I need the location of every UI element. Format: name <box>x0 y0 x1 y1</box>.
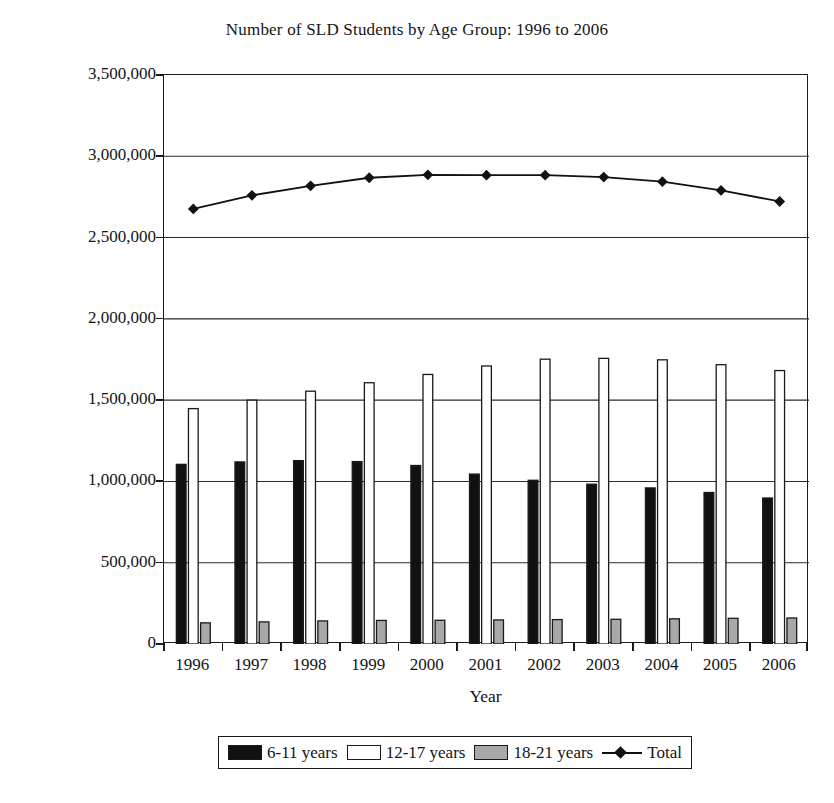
bar <box>423 374 433 644</box>
bar <box>235 462 245 644</box>
legend-label: 18-21 years <box>513 743 593 763</box>
bar <box>259 622 269 644</box>
total-line-marker <box>422 169 433 180</box>
legend-entry: 18-21 years <box>474 743 593 763</box>
bar <box>587 484 597 644</box>
x-tick-mark <box>515 643 517 651</box>
y-tick-label: 500,000 <box>16 553 156 570</box>
bar <box>787 618 797 644</box>
bar <box>201 623 211 644</box>
x-tick-mark <box>222 643 224 651</box>
total-line-marker <box>364 172 375 183</box>
total-line-marker <box>774 196 785 207</box>
bar <box>188 409 198 644</box>
gray-swatch <box>474 745 508 760</box>
y-axis-ticks: 0500,0001,000,0001,500,0002,000,0002,500… <box>8 74 156 643</box>
legend-entry: Total <box>602 743 682 763</box>
bar <box>376 620 386 644</box>
bar <box>294 461 304 644</box>
plot-area <box>163 74 808 643</box>
legend-entry: 6-11 years <box>228 743 338 763</box>
y-tick-mark <box>156 643 163 645</box>
x-tick-mark <box>749 643 751 651</box>
bar <box>645 488 655 644</box>
total-line-marker <box>188 204 199 215</box>
x-tick-label: 2006 <box>744 655 814 675</box>
legend-entry: 12-17 years <box>347 743 466 763</box>
x-tick-mark <box>339 643 341 651</box>
bar <box>775 371 785 644</box>
bar <box>599 358 609 644</box>
total-line-marker <box>247 190 258 201</box>
bar <box>482 366 492 644</box>
bar <box>552 620 562 644</box>
total-line-marker <box>598 172 609 183</box>
x-tick-mark <box>573 643 575 651</box>
bar <box>352 462 362 644</box>
bar <box>247 400 257 644</box>
x-tick-mark <box>163 643 165 651</box>
bar <box>494 620 504 644</box>
bar <box>364 383 374 644</box>
x-tick-mark <box>632 643 634 651</box>
y-tick-label: 3,000,000 <box>16 146 156 163</box>
y-tick-label: 2,000,000 <box>16 309 156 326</box>
x-tick-mark <box>398 643 400 651</box>
total-line-marker <box>305 180 316 191</box>
x-tick-mark <box>806 643 808 651</box>
bar <box>435 620 445 644</box>
bar <box>318 621 328 644</box>
total-line-marker <box>481 170 492 181</box>
y-tick-mark <box>156 318 163 320</box>
x-axis-ticks: 1996199719981999200020012002200320042005… <box>163 643 808 683</box>
y-tick-label: 1,000,000 <box>16 471 156 488</box>
y-tick-label: 0 <box>16 634 156 651</box>
legend-label: 12-17 years <box>386 743 466 763</box>
chart-legend: 6-11 years12-17 years18-21 yearsTotal <box>218 736 692 769</box>
bar <box>470 474 480 644</box>
bar <box>658 360 668 644</box>
plot-svg <box>164 75 809 644</box>
y-tick-mark <box>156 155 163 157</box>
y-tick-mark <box>156 480 163 482</box>
bar <box>670 619 680 644</box>
bar <box>528 480 538 644</box>
total-line-marker <box>657 176 668 187</box>
bar <box>763 498 773 644</box>
y-tick-mark <box>156 562 163 564</box>
legend-label: 6-11 years <box>267 743 338 763</box>
x-tick-mark <box>280 643 282 651</box>
y-tick-mark <box>156 399 163 401</box>
legend-label: Total <box>647 743 682 763</box>
total-line-marker <box>716 185 727 196</box>
black-swatch <box>228 745 262 760</box>
y-tick-label: 2,500,000 <box>16 228 156 245</box>
chart-title: Number of SLD Students by Age Group: 199… <box>0 20 834 40</box>
y-tick-mark <box>156 237 163 239</box>
bar <box>540 359 550 644</box>
x-tick-mark <box>691 643 693 651</box>
total-line-marker <box>540 170 551 181</box>
bar <box>716 365 726 644</box>
y-tick-label: 3,500,000 <box>16 65 156 82</box>
bar <box>704 492 714 644</box>
x-tick-mark <box>456 643 458 651</box>
bar <box>176 464 186 644</box>
chart-figure: Number of SLD Students by Age Group: 199… <box>0 0 834 803</box>
y-tick-label: 1,500,000 <box>16 390 156 407</box>
y-tick-mark <box>156 74 163 76</box>
bar <box>728 618 738 644</box>
bar <box>411 465 421 644</box>
x-axis-title: Year <box>163 686 808 707</box>
bar <box>306 391 316 644</box>
bar <box>611 619 621 644</box>
line-diamond-icon <box>602 746 642 760</box>
white-swatch <box>347 745 381 760</box>
